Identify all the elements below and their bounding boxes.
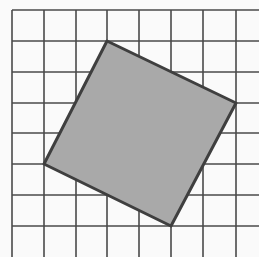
grid-diagram xyxy=(0,0,259,257)
